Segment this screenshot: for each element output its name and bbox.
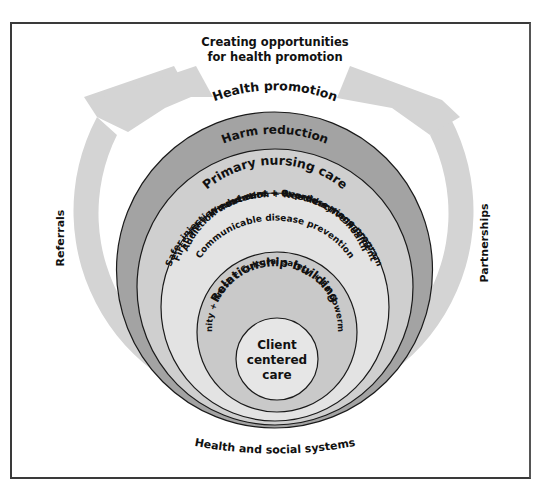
label-health-promotion: Health promotion [210, 78, 339, 104]
left-arrowhead-tip-icon [104, 66, 213, 97]
title-line-1: Creating opportunities [201, 35, 349, 49]
label-partnerships: Partnerships [478, 203, 491, 283]
center-line-2: centered [247, 353, 307, 367]
label-referrals: Referrals [54, 209, 67, 266]
label-health-social-systems: Health and social systems [194, 436, 357, 457]
right-arrowhead-icon [337, 66, 460, 135]
center-line-3: care [262, 368, 291, 382]
diagram-canvas: Health promotion Harm reduction Primary … [0, 0, 545, 487]
title-line-2: for health promotion [207, 50, 342, 64]
center-line-1: Client [257, 338, 297, 352]
